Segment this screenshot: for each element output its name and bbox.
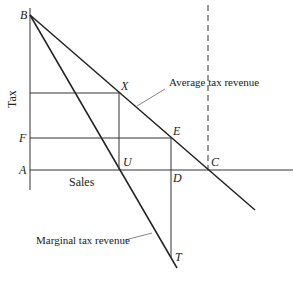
label-f: F: [18, 131, 27, 145]
label-x: X: [120, 79, 129, 93]
label-t: T: [175, 250, 183, 264]
y-axis-label: Tax: [5, 90, 19, 108]
x-axis-label: Sales: [69, 175, 95, 189]
label-a: A: [18, 163, 27, 177]
average-leader: [137, 89, 165, 106]
tax-revenue-diagram: B X E F A U D C T Tax Sales Average tax …: [0, 0, 294, 284]
marginal-tax-revenue-line: [30, 15, 177, 268]
average-tax-revenue-line: [30, 15, 255, 210]
label-c: C: [211, 155, 220, 169]
label-u: U: [123, 155, 133, 169]
marginal-tax-revenue-label: Marginal tax revenue: [36, 234, 130, 246]
label-e: E: [172, 124, 181, 138]
label-b: B: [20, 8, 28, 22]
average-tax-revenue-label: Average tax revenue: [169, 76, 259, 88]
label-d: D: [172, 171, 182, 185]
